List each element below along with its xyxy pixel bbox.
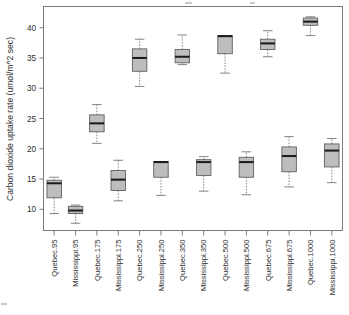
box-iqr xyxy=(218,36,233,54)
y-tick-label: 40 xyxy=(27,24,37,33)
y-tick-label: 10 xyxy=(27,205,37,214)
plot-frame xyxy=(44,7,343,231)
x-tick-label: Quebec.350 xyxy=(178,240,187,281)
x-tick-label: Quebec.675 xyxy=(264,240,273,281)
boxplot-box xyxy=(90,105,105,144)
x-tick-label: Quebec.175 xyxy=(93,240,102,281)
box-iqr xyxy=(132,49,147,71)
x-tick-label: Mississippi.95 xyxy=(71,240,80,287)
box-iqr xyxy=(239,157,254,177)
x-tick-label: Mississippi.250 xyxy=(157,240,166,292)
boxplot-box xyxy=(282,137,297,187)
y-tick-label: 35 xyxy=(27,54,37,63)
x-tick-label: Mississippi.500 xyxy=(242,240,251,292)
boxplot-box xyxy=(196,157,211,192)
y-tick-label: 30 xyxy=(27,84,37,93)
boxplot-box xyxy=(154,161,169,195)
x-tick-label: Quebec.95 xyxy=(50,240,59,277)
boxplot-figure: 10152025303540 Carbon dioxide uptake rat… xyxy=(0,0,349,315)
plot-svg: 10152025303540 Carbon dioxide uptake rat… xyxy=(0,0,349,315)
x-tick-label: Mississippi.675 xyxy=(285,240,294,292)
boxplot-box xyxy=(303,17,318,36)
boxplot-series xyxy=(47,17,339,223)
box-iqr xyxy=(154,161,169,177)
box-iqr xyxy=(325,144,340,167)
boxplot-box xyxy=(261,31,276,57)
boxplot-box xyxy=(325,138,340,182)
x-tick-label: Quebec.250 xyxy=(135,240,144,281)
boxplot-box xyxy=(111,160,126,201)
boxplot-box xyxy=(218,36,233,74)
x-tick-label: Quebec.1000 xyxy=(306,240,315,286)
boxplot-box xyxy=(47,177,62,213)
boxplot-box xyxy=(239,152,254,195)
x-tick-label: Quebec.500 xyxy=(221,240,230,281)
boxplot-box xyxy=(132,39,147,86)
scan-speck xyxy=(185,2,192,4)
y-tick-label: 25 xyxy=(27,115,37,124)
scan-speck xyxy=(1,303,7,305)
scan-speck xyxy=(250,2,255,4)
y-axis: 10152025303540 xyxy=(27,24,44,215)
y-tick-label: 15 xyxy=(27,175,37,184)
x-tick-label: Mississippi.350 xyxy=(199,240,208,292)
x-tick-label: Mississippi.175 xyxy=(114,240,123,292)
y-axis-title: Carbon dioxide uptake rate (umol/m^2 sec… xyxy=(5,37,15,201)
box-iqr xyxy=(282,147,297,172)
boxplot-box xyxy=(175,35,190,65)
x-axis: Quebec.95Mississippi.95Quebec.175Mississ… xyxy=(50,231,337,296)
x-tick-label: Mississippi.1000 xyxy=(328,240,337,296)
boxplot-box xyxy=(68,205,83,223)
y-tick-label: 20 xyxy=(27,145,37,154)
